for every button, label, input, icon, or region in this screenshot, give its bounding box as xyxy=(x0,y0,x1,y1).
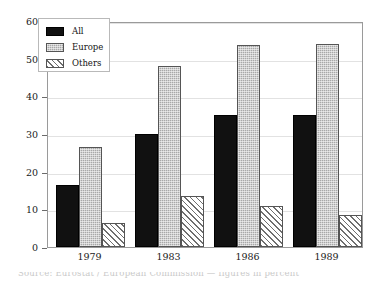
bar-group-1986 xyxy=(206,23,285,247)
bar-others-1979 xyxy=(102,223,125,247)
legend-item-label: All xyxy=(72,27,84,36)
y-tick-label: 50 xyxy=(26,55,38,65)
gray-stipple-swatch-icon xyxy=(46,43,64,52)
diagonal-hatch-swatch-icon xyxy=(46,59,64,68)
y-tick-label: 0 xyxy=(32,243,38,253)
x-tick-label-1989: 1989 xyxy=(314,252,338,262)
y-tick-label: 30 xyxy=(26,130,38,140)
bar-all-1983 xyxy=(135,134,158,247)
bar-others-1983 xyxy=(181,196,204,247)
bar-group-1983 xyxy=(127,23,206,247)
bar-europe-1979 xyxy=(79,147,102,247)
bar-europe-1986 xyxy=(237,45,260,247)
x-tick-label-1986: 1986 xyxy=(235,252,259,262)
x-tick-label-1979: 1979 xyxy=(77,252,101,262)
clipped-caption: Source: Eurostat / European Commission —… xyxy=(0,272,378,284)
legend-item-label: Others xyxy=(72,59,101,68)
bar-all-1979 xyxy=(56,185,79,247)
bar-europe-1983 xyxy=(158,66,181,247)
y-tick-label: 40 xyxy=(26,92,38,102)
bar-others-1989 xyxy=(339,215,362,247)
solid-black-swatch-icon xyxy=(46,27,64,36)
y-tick-mark xyxy=(42,248,47,249)
legend-item-label: Europe xyxy=(72,43,103,52)
y-tick-label: 20 xyxy=(26,168,38,178)
caption-text: Source: Eurostat / European Commission —… xyxy=(18,272,299,278)
legend-item-others: Others xyxy=(46,56,109,71)
x-tick-label-1983: 1983 xyxy=(156,252,180,262)
bar-all-1986 xyxy=(214,115,237,247)
bar-europe-1989 xyxy=(316,44,339,247)
bar-all-1989 xyxy=(293,115,316,247)
bar-others-1986 xyxy=(260,206,283,247)
bar-chart: 0102030405060 All Europe Others Source: … xyxy=(0,0,378,284)
legend-item-all: All xyxy=(46,24,109,39)
bar-group-1989 xyxy=(285,23,364,247)
chart-legend: All Europe Others xyxy=(38,18,110,72)
y-tick-label: 60 xyxy=(26,17,38,27)
y-tick-label: 10 xyxy=(26,205,38,215)
legend-item-europe: Europe xyxy=(46,40,109,55)
